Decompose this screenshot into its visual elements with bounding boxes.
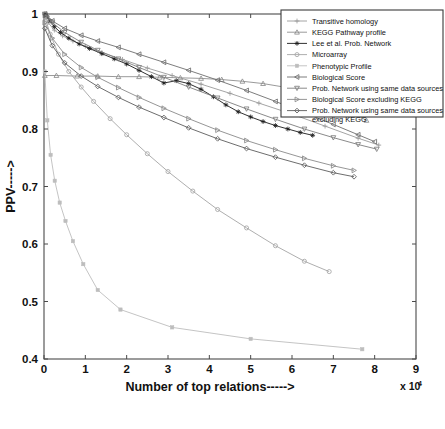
x-tick-label: 8 xyxy=(371,363,378,375)
legend-label: Phenotypic Profile xyxy=(312,62,372,71)
data-point-marker xyxy=(261,119,266,124)
data-point-marker xyxy=(310,133,315,138)
y-axis-title: PPV-----> xyxy=(4,160,18,212)
data-point-marker xyxy=(53,179,56,182)
x-axis-multiplier-exponent: 4 xyxy=(418,380,422,387)
y-tick-label: 0.7 xyxy=(22,181,38,193)
legend-label: Microarray xyxy=(312,50,347,59)
legend: Transitive homologyKEGG Pathway profileL… xyxy=(281,10,443,124)
data-point-marker xyxy=(96,288,99,291)
legend-label: Transitive homology xyxy=(312,17,378,26)
data-point-marker xyxy=(223,102,228,107)
data-point-marker xyxy=(295,41,300,46)
data-point-marker xyxy=(149,74,154,79)
y-tick-label: 1 xyxy=(32,8,39,20)
x-tick-label: 6 xyxy=(289,363,295,375)
y-tick-label: 0.5 xyxy=(22,296,39,308)
data-point-marker xyxy=(236,109,241,114)
data-point-marker xyxy=(170,326,173,329)
ppv-vs-top-relations-chart: 01234567890.40.50.60.70.80.91Number of t… xyxy=(0,0,445,429)
data-point-marker xyxy=(298,130,303,135)
data-point-marker xyxy=(49,153,52,156)
data-point-marker xyxy=(58,201,61,204)
legend-label: Biological Score excluding KEGG xyxy=(312,95,422,104)
legend-label: Prob. Network using same data sources xyxy=(312,84,443,93)
x-tick-label: 7 xyxy=(330,363,336,375)
x-tick-label: 5 xyxy=(247,363,254,375)
data-point-marker xyxy=(273,123,278,128)
data-point-marker xyxy=(119,308,122,311)
legend-label-continued: excluding KEGG xyxy=(312,115,367,124)
legend-label: Biological Score xyxy=(312,73,365,82)
x-tick-label: 0 xyxy=(41,363,47,375)
data-point-marker xyxy=(248,115,253,120)
data-point-marker xyxy=(161,81,166,86)
x-axis-title: Number of top relations-----> xyxy=(125,380,294,394)
y-tick-label: 0.9 xyxy=(22,66,38,78)
data-point-marker xyxy=(361,348,364,351)
x-tick-label: 4 xyxy=(206,363,213,375)
data-point-marker xyxy=(295,64,298,67)
data-point-marker xyxy=(66,36,71,41)
data-point-marker xyxy=(64,219,67,222)
data-point-marker xyxy=(46,119,49,122)
x-tick-label: 1 xyxy=(82,363,89,375)
x-tick-label: 3 xyxy=(165,363,171,375)
y-tick-label: 0.6 xyxy=(22,238,38,250)
x-tick-label: 9 xyxy=(413,363,419,375)
data-point-marker xyxy=(249,337,252,340)
legend-label: Prob. Network using same data sources xyxy=(312,106,443,115)
x-tick-label: 2 xyxy=(123,363,129,375)
data-point-marker xyxy=(71,239,74,242)
data-point-marker xyxy=(82,262,85,265)
legend-label: KEGG Pathway profile xyxy=(312,28,386,37)
data-point-marker xyxy=(285,127,290,132)
y-tick-label: 0.8 xyxy=(22,123,39,135)
legend-label: Lee et al. Prob. Network xyxy=(312,39,392,48)
y-tick-label: 0.4 xyxy=(22,353,39,365)
